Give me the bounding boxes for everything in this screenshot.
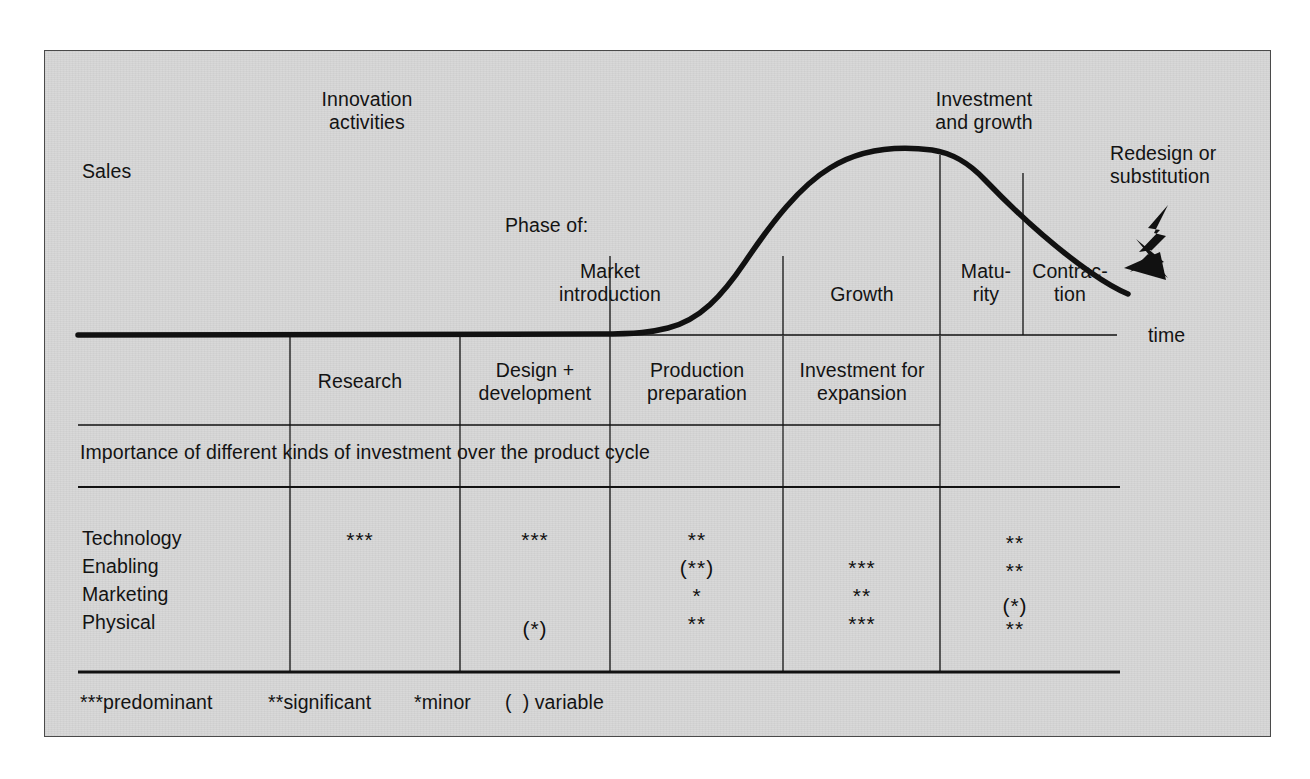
rating-physical-design: (*) (522, 618, 547, 639)
activity-cell-production-preparation: Production preparation (647, 359, 747, 405)
investment-table-caption: Importance of different kinds of investm… (80, 441, 650, 464)
rating-technology-production: ** (688, 529, 706, 550)
legend-item-significant: **significant (268, 691, 371, 714)
rating-enabling-expansion: *** (848, 557, 876, 578)
rating-technology-research: *** (346, 529, 374, 550)
investment-row-label-physical: Physical (82, 611, 155, 634)
phase-of-header: Phase of: (505, 214, 588, 237)
rating-physical-maturity: ** (1006, 618, 1024, 639)
phase-label-contraction: Contrac- tion (1032, 260, 1108, 306)
rating-physical-expansion: *** (848, 613, 876, 634)
investment-row-label-marketing: Marketing (82, 583, 169, 606)
rating-marketing-production: * (692, 585, 701, 606)
y-axis-label: Sales (82, 160, 131, 183)
legend-item-minor: *minor (414, 691, 471, 714)
rating-technology-maturity: ** (1006, 532, 1024, 553)
rating-technology-design: *** (521, 529, 549, 550)
phase-label-growth: Growth (830, 283, 893, 306)
activity-cell-design-development: Design + development (479, 359, 592, 405)
callout-redesign-or-substitution: Redesign or substitution (1110, 142, 1216, 188)
rating-enabling-production: (**) (680, 557, 714, 578)
legend-item-variable: ( ) variable (505, 691, 604, 714)
phase-label-maturity: Matu- rity (961, 260, 1011, 306)
rating-physical-production: ** (688, 613, 706, 634)
figure-canvas: Sales time Innovation activities Investm… (0, 0, 1310, 779)
investment-row-label-enabling: Enabling (82, 555, 159, 578)
rating-marketing-expansion: ** (853, 585, 871, 606)
activity-cell-research: Research (318, 370, 402, 393)
investment-row-label-technology: Technology (82, 527, 182, 550)
rating-enabling-maturity: ** (1006, 560, 1024, 581)
x-axis-label: time (1148, 324, 1185, 347)
rating-marketing-maturity: (*) (1002, 595, 1027, 616)
callout-innovation-activities: Innovation activities (322, 88, 413, 134)
activity-cell-investment-for-expansion: Investment for expansion (800, 359, 925, 405)
legend-item-predominant: ***predominant (80, 691, 213, 714)
phase-label-market-introduction: Market introduction (559, 260, 661, 306)
callout-investment-and-growth: Investment and growth (935, 88, 1032, 134)
